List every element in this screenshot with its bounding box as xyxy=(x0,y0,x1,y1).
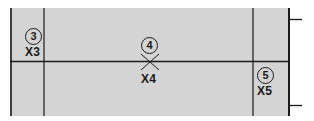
marker-5-code: X5 xyxy=(257,84,272,98)
marker-4-number-circle: 4 xyxy=(141,37,158,54)
marker-4-code: X4 xyxy=(141,72,156,86)
marker-3-number-circle: 3 xyxy=(25,28,42,45)
diagram-lines xyxy=(0,0,314,121)
diagram: 3 X3 4 X4 5 X5 xyxy=(0,0,314,121)
marker-3-code: X3 xyxy=(25,45,40,59)
marker-5-number-circle: 5 xyxy=(257,67,274,84)
